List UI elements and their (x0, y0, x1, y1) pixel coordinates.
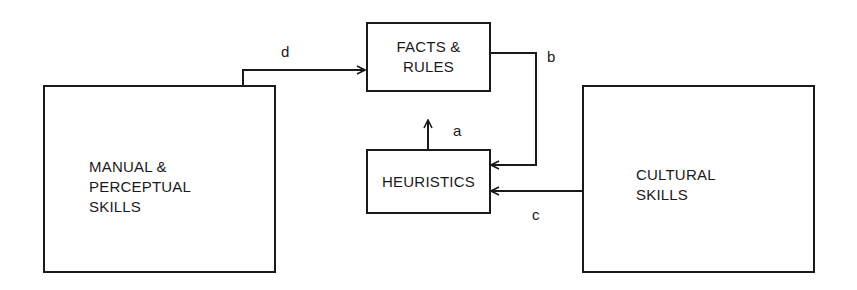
edge-label-a: a (453, 122, 461, 139)
node-label-line: RULES (368, 57, 489, 77)
node-label-line: PERCEPTUAL (89, 177, 191, 197)
edge-d-arrow (243, 70, 365, 86)
node-label-line: CULTURAL (636, 165, 716, 185)
node-label-line: HEURISTICS (368, 172, 489, 192)
node-label-line: FACTS & (368, 37, 489, 57)
node-heuristics: HEURISTICS (366, 149, 491, 214)
node-label-line: SKILLS (636, 185, 716, 205)
edge-label-b: b (547, 48, 555, 65)
edge-label-d: d (281, 43, 289, 60)
edge-b-arrow (490, 53, 536, 165)
node-manual-perceptual-skills: MANUAL & PERCEPTUAL SKILLS (43, 85, 276, 273)
node-label-line: SKILLS (89, 197, 191, 217)
node-cultural-skills: CULTURAL SKILLS (582, 85, 815, 273)
node-label-line: MANUAL & (89, 157, 191, 177)
node-facts-rules: FACTS & RULES (366, 22, 491, 92)
edge-label-c: c (532, 206, 540, 223)
